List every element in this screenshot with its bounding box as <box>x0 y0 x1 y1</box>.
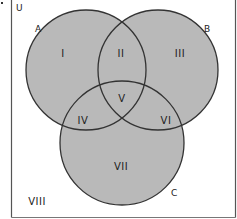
region-6-label: VI <box>161 115 172 126</box>
region-7-label: VII <box>114 161 128 172</box>
set-b-label: B <box>204 24 210 34</box>
set-c-label: C <box>171 188 177 198</box>
venn-svg: U A B C I II III V IV VI VII VIII <box>0 0 237 219</box>
venn-diagram: U A B C I II III V IV VI VII VIII <box>0 0 237 219</box>
region-5-label: V <box>118 93 125 104</box>
region-2-label: II <box>118 48 125 59</box>
universe-label: U <box>16 3 23 13</box>
set-a-label: A <box>35 24 42 34</box>
region-4-label: IV <box>78 115 89 126</box>
sets-fill <box>26 10 218 205</box>
region-3-label: III <box>175 48 185 59</box>
region-1-label: I <box>61 48 64 59</box>
region-8-label: VIII <box>28 196 46 207</box>
